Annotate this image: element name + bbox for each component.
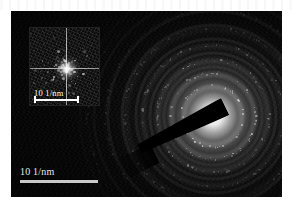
inset-scalebar: 10 1/nm: [34, 88, 79, 101]
inset-scalebar-label: 10 1/nm: [34, 88, 79, 98]
main-scalebar-bar: [20, 180, 98, 183]
main-scalebar-label: 10 1/nm: [20, 166, 98, 178]
fft-central-maximum: [50, 52, 84, 86]
main-scalebar: 10 1/nm: [20, 166, 98, 183]
fft-inset: 10 1/nm: [29, 27, 100, 106]
figure-stage: 10 1/nm 10 1/nm: [0, 0, 296, 211]
inset-scalebar-bar: [34, 99, 79, 101]
scan-noise-strip: [0, 0, 296, 10]
main-micrograph: 10 1/nm 10 1/nm: [11, 11, 282, 197]
